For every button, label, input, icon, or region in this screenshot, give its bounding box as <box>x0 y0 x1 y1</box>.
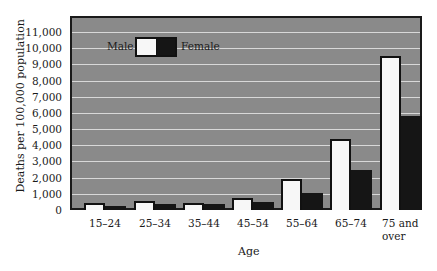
x-tick-label: 45–54 <box>228 217 278 230</box>
x-tick-label: 35–44 <box>179 217 229 230</box>
female-bar <box>105 206 126 210</box>
y-tick-label: 7,000 <box>2 91 62 103</box>
female-bar <box>302 193 323 210</box>
x-tick-label: 15–24 <box>80 217 130 230</box>
female-bar <box>155 204 176 210</box>
y-tick-label: 11,000 <box>2 26 62 38</box>
x-tick-label: 25–34 <box>130 217 180 230</box>
gridline <box>72 145 420 146</box>
gridline <box>72 81 420 82</box>
y-tick-label: 6,000 <box>2 107 62 119</box>
legend-female-label: Female <box>181 40 220 52</box>
x-tick-label: 65–74 <box>326 217 376 230</box>
female-bar <box>351 170 372 210</box>
y-tick-label: 10,000 <box>2 42 62 54</box>
male-bar <box>232 198 253 210</box>
male-bar <box>183 203 204 210</box>
legend-male-swatch <box>137 39 157 55</box>
x-axis-label: Age <box>238 245 260 258</box>
gridline <box>72 97 420 98</box>
y-tick-label: 8,000 <box>2 75 62 87</box>
y-tick-label: 3,000 <box>2 155 62 167</box>
legend-swatch <box>135 37 177 57</box>
gridline <box>72 64 420 65</box>
x-tick-label: 75 andover <box>382 217 432 243</box>
y-tick-label: 5,000 <box>2 123 62 135</box>
y-tick-label: 2,000 <box>2 172 62 184</box>
female-bar <box>204 204 225 210</box>
male-bar <box>134 201 155 210</box>
gridline <box>72 161 420 162</box>
male-bar <box>281 179 302 210</box>
x-tick-label: 55–64 <box>277 217 327 230</box>
gridline <box>72 129 420 130</box>
y-tick-label: 9,000 <box>2 58 62 70</box>
female-bar <box>401 116 422 210</box>
gridline <box>72 113 420 114</box>
y-tick-label: 4,000 <box>2 139 62 151</box>
male-bar <box>330 139 351 210</box>
male-bar <box>84 203 105 210</box>
y-tick-label: 0 <box>2 204 62 216</box>
gridline <box>72 32 420 33</box>
y-tick-label: 1,000 <box>2 188 62 200</box>
female-bar <box>253 202 274 210</box>
legend-male-label: Male <box>107 40 134 52</box>
male-bar <box>380 56 401 210</box>
